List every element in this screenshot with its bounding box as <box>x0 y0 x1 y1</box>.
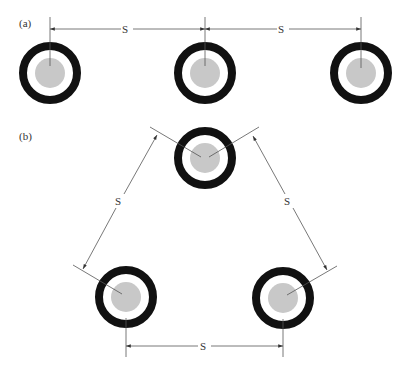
spacing-label-a1: S <box>122 23 128 35</box>
spacing-label-b-left: S <box>115 195 121 207</box>
panel-b-label: (b) <box>19 130 32 143</box>
panel-a-label: (a) <box>19 17 32 30</box>
cable-b-left <box>99 270 153 324</box>
spacing-label-a2: S <box>278 23 284 35</box>
spacing-label-b-bottom: S <box>200 340 206 352</box>
cable-b-right <box>256 271 310 325</box>
diagram-svg: (a) S S (b) <box>0 0 406 373</box>
spacing-label-b-right: S <box>284 195 290 207</box>
panel-a: (a) S S <box>19 17 388 100</box>
panel-b: (b) S S S <box>19 127 337 357</box>
cable-spacing-diagram: (a) S S (b) <box>0 0 406 373</box>
cable-b-top <box>178 131 232 185</box>
